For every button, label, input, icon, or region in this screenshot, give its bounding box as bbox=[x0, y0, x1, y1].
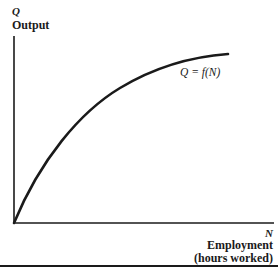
production-function-curve bbox=[14, 54, 228, 223]
curve-label: Q = f(N) bbox=[180, 67, 220, 79]
y-axis-variable: Q bbox=[12, 6, 20, 17]
x-axis-label: Employment bbox=[207, 239, 273, 251]
chart-canvas bbox=[0, 0, 278, 269]
x-axis-sublabel: (hours worked) bbox=[194, 252, 273, 264]
y-axis-label: Output bbox=[12, 19, 49, 31]
